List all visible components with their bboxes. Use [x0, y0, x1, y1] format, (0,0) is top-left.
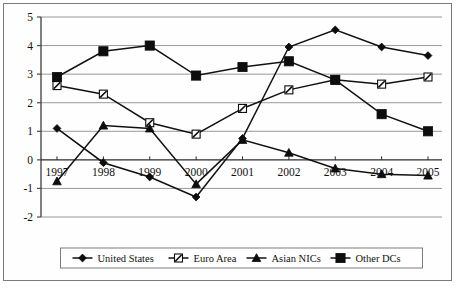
series-euro-area — [53, 73, 432, 138]
legend-label: Other DCs — [356, 253, 401, 264]
series-other-dcs — [52, 41, 432, 136]
legend-label: Euro Area — [194, 253, 237, 264]
y-tick-label: 4 — [27, 40, 33, 52]
legend-label: United States — [98, 253, 154, 264]
y-tick-label: 0 — [27, 154, 33, 166]
marker-filled-square — [331, 75, 340, 84]
marker-filled-square — [336, 253, 345, 262]
marker-filled-square — [238, 62, 247, 71]
y-tick-labels-group: 543210-1-2 — [23, 11, 33, 223]
x-tick-label: 1998 — [92, 166, 115, 178]
marker-filled-diamond — [378, 43, 386, 51]
legend-item-euro-area[interactable]: Euro Area — [169, 253, 237, 264]
y-tick-label: 5 — [27, 11, 33, 23]
marker-filled-diamond — [285, 43, 293, 51]
line-chart: 543210-1-2 19971998199920002001200220032… — [0, 0, 459, 288]
marker-filled-square — [99, 47, 108, 56]
y-tick-label: 1 — [27, 125, 33, 137]
marker-filled-square — [284, 57, 293, 66]
series-line — [57, 46, 428, 132]
x-tick-label: 2002 — [277, 166, 300, 178]
chart-legend: United StatesEuro AreaAsian NICsOther DC… — [61, 248, 423, 268]
y-tick-label: 3 — [27, 68, 33, 80]
legend-label: Asian NICs — [272, 253, 321, 264]
marker-filled-square — [192, 71, 201, 80]
marker-filled-square — [52, 72, 61, 81]
y-tick-label: 2 — [27, 97, 33, 109]
y-tick-label: -1 — [23, 182, 33, 194]
x-tick-label: 2001 — [231, 166, 254, 178]
marker-filled-square — [145, 41, 154, 50]
marker-filled-square — [423, 127, 432, 136]
marker-filled-diamond — [331, 26, 339, 34]
chart-svg: 543210-1-2 19971998199920002001200220032… — [0, 0, 459, 288]
marker-filled-diamond — [424, 52, 432, 60]
y-tick-label: -2 — [23, 211, 33, 223]
marker-filled-square — [377, 110, 386, 119]
legend-item-other-dcs[interactable]: Other DCs — [331, 253, 401, 264]
